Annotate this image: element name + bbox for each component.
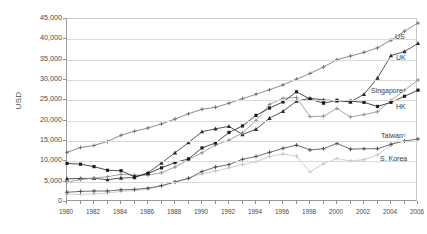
x-tick-label: 2000	[322, 209, 350, 215]
x-tick-label: 1982	[79, 209, 107, 215]
x-axis-tick-labels: 1980198219841986198819901992199419961998…	[0, 0, 427, 234]
series-label-singapore: Singapore	[371, 87, 403, 94]
x-tick-mark	[309, 201, 310, 204]
y-tick-mark	[63, 79, 66, 80]
x-tick-mark	[255, 201, 256, 204]
x-tick-mark	[201, 201, 202, 204]
x-tick-mark	[404, 201, 405, 204]
series-label-skorea: S. Korea	[380, 155, 407, 162]
x-tick-label: 1996	[268, 209, 296, 215]
x-tick-label: 1986	[133, 209, 161, 215]
series-label-us: US	[395, 33, 405, 40]
y-tick-mark	[63, 201, 66, 202]
x-tick-mark	[390, 201, 391, 204]
y-tick-mark	[63, 160, 66, 161]
gdp-per-capita-line-chart: USD 45,00040,00035,00030,00025,00020,000…	[0, 0, 427, 234]
y-tick-mark	[63, 140, 66, 141]
x-tick-label: 1984	[106, 209, 134, 215]
x-tick-mark	[80, 201, 81, 204]
x-tick-mark	[161, 201, 162, 204]
x-tick-mark	[269, 201, 270, 204]
x-tick-label: 2006	[403, 209, 427, 215]
y-tick-mark	[63, 181, 66, 182]
x-tick-mark	[417, 201, 418, 204]
x-tick-mark	[215, 201, 216, 204]
x-tick-label: 1990	[187, 209, 215, 215]
x-tick-mark	[363, 201, 364, 204]
x-tick-label: 1988	[160, 209, 188, 215]
x-tick-mark	[336, 201, 337, 204]
x-tick-label: 2002	[349, 209, 377, 215]
x-tick-label: 1992	[214, 209, 242, 215]
y-tick-mark	[63, 38, 66, 39]
y-tick-mark	[63, 18, 66, 19]
y-tick-mark	[63, 120, 66, 121]
x-tick-label: 2004	[376, 209, 404, 215]
x-tick-mark	[147, 201, 148, 204]
series-label-uk: UK	[396, 54, 406, 61]
x-tick-mark	[188, 201, 189, 204]
y-tick-mark	[63, 99, 66, 100]
x-tick-mark	[120, 201, 121, 204]
x-tick-mark	[377, 201, 378, 204]
series-label-taiwan: Taiwan	[381, 132, 403, 139]
x-tick-mark	[228, 201, 229, 204]
x-tick-label: 1980	[52, 209, 80, 215]
x-tick-mark	[296, 201, 297, 204]
y-tick-mark	[63, 59, 66, 60]
x-tick-label: 1998	[295, 209, 323, 215]
x-tick-mark	[242, 201, 243, 204]
x-tick-mark	[66, 201, 67, 204]
x-tick-mark	[93, 201, 94, 204]
x-tick-label: 1994	[241, 209, 269, 215]
x-tick-mark	[134, 201, 135, 204]
series-label-hk: HK	[396, 103, 406, 110]
x-tick-mark	[282, 201, 283, 204]
x-tick-mark	[350, 201, 351, 204]
x-tick-mark	[174, 201, 175, 204]
x-tick-mark	[107, 201, 108, 204]
x-tick-mark	[323, 201, 324, 204]
